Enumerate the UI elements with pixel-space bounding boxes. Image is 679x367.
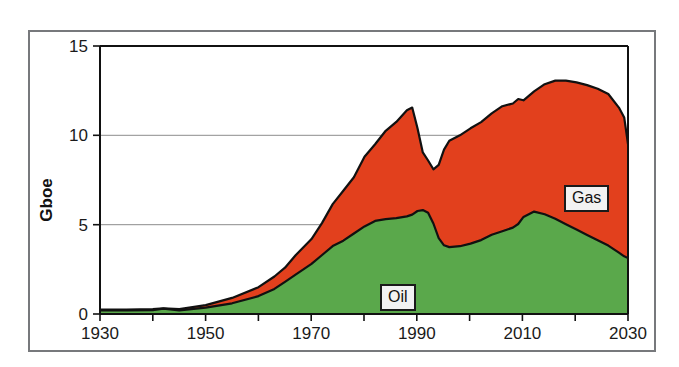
x-tick-label-2030: 2030 <box>609 324 647 343</box>
x-tick-label-1950: 1950 <box>187 324 225 343</box>
figure-canvas: 15 10 5 0 Gboe 1930 1950 <box>0 0 679 367</box>
y-tick-label-5: 5 <box>79 216 88 235</box>
x-tick-marks <box>100 314 628 321</box>
x-tick-label-2010: 2010 <box>503 324 541 343</box>
x-tick-label-1930: 1930 <box>81 324 119 343</box>
y-tick-label-15: 15 <box>69 37 88 56</box>
x-tick-label-1970: 1970 <box>292 324 330 343</box>
chart-outer-frame: 15 10 5 0 Gboe 1930 1950 <box>28 30 656 352</box>
y-tick-label-0: 0 <box>79 305 88 324</box>
x-tick-label-1990: 1990 <box>398 324 436 343</box>
y-tick-marks <box>93 46 100 314</box>
y-tick-label-10: 10 <box>69 126 88 145</box>
series-label-gas: Gas <box>564 185 609 212</box>
series-label-oil: Oil <box>380 284 416 311</box>
y-axis-title: Gboe <box>37 178 56 221</box>
stacked-area-chart: 15 10 5 0 Gboe 1930 1950 <box>30 32 654 350</box>
